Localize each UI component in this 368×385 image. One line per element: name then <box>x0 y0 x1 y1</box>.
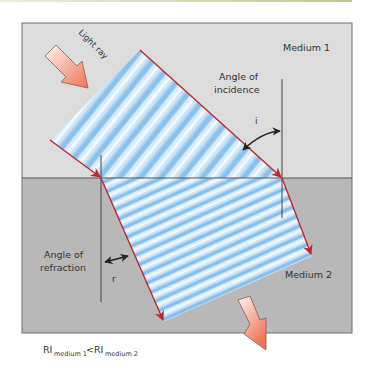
angle-of-incidence-label-line1: Angle of <box>219 71 259 82</box>
angle-i-symbol: i <box>255 116 258 126</box>
angle-of-refraction-label-line2: refraction <box>40 262 86 273</box>
ri-label-1: RI <box>43 344 52 355</box>
ri-subscript-2: medium 2 <box>105 350 138 358</box>
medium-1-label: Medium 1 <box>283 42 330 53</box>
angle-of-incidence-label-line2: incidence <box>214 84 260 95</box>
less-than-symbol: < <box>86 344 94 355</box>
ri-subscript-1: medium 1 <box>54 350 87 358</box>
refraction-diagram: Light ray Medium 1 Medium 2 Angle of inc… <box>0 0 368 385</box>
medium-2-label: Medium 2 <box>285 269 332 280</box>
angle-of-refraction-label-line1: Angle of <box>44 249 84 260</box>
refractive-index-relation: RI medium 1 < RI medium 2 <box>43 344 138 358</box>
angle-r-symbol: r <box>112 274 116 284</box>
ri-label-2: RI <box>94 344 103 355</box>
